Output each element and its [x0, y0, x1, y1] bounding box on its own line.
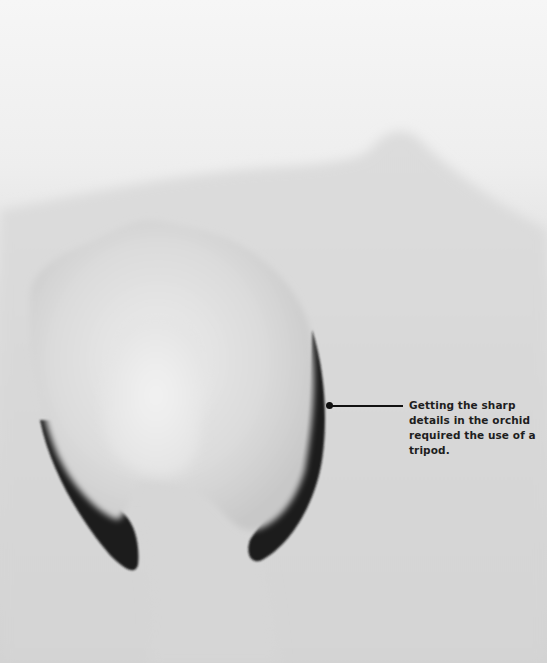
- orchid-photograph: Getting the sharp details in the orchid …: [0, 0, 547, 663]
- callout-leader-line: [331, 405, 403, 407]
- orchid-column: [102, 316, 210, 476]
- photo-callout: Getting the sharp details in the orchid …: [326, 400, 547, 470]
- callout-caption: Getting the sharp details in the orchid …: [409, 398, 544, 458]
- orchid-image: [0, 0, 547, 663]
